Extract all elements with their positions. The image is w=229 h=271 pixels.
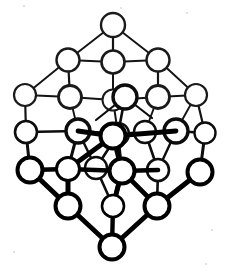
atom-node (147, 49, 170, 72)
atom-node (147, 86, 170, 109)
atom-node (110, 159, 135, 184)
atom-node (101, 124, 126, 149)
atom-node (14, 84, 36, 106)
atom-node (15, 121, 37, 143)
atom-node (18, 158, 43, 183)
atom-node (188, 160, 213, 185)
lattice-figure (0, 0, 229, 271)
atom-node (101, 13, 125, 37)
atom-node (195, 123, 216, 144)
lattice-diagram (0, 0, 229, 271)
atom-node (102, 51, 125, 74)
atom-node (102, 195, 124, 217)
atom-node (145, 194, 170, 219)
atom-node (100, 235, 125, 260)
atom-node (59, 86, 82, 109)
atom-node (113, 85, 137, 109)
atom-node (57, 49, 80, 72)
atom-node (57, 158, 80, 181)
atom-node (56, 194, 81, 219)
atom-node (185, 84, 207, 106)
